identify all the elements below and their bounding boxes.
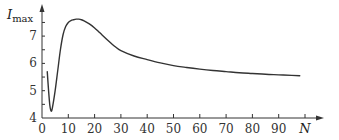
x-tick-label: 80: [245, 122, 260, 136]
x-tick-label: 10: [61, 122, 76, 136]
axes: [40, 4, 325, 121]
y-tick-label: 5: [29, 84, 37, 98]
y-tick-label: 4: [29, 111, 37, 125]
y-axis-title: Imax: [6, 7, 34, 24]
y-tick-label: 7: [29, 29, 37, 43]
x-tick-label: 40: [140, 122, 155, 136]
x-axis-arrow-icon: [316, 116, 324, 121]
x-tick-label: 70: [218, 122, 233, 136]
y-ticks: 4567: [29, 22, 45, 125]
x-tick-label: 90: [271, 122, 286, 136]
x-tick-label: 60: [192, 122, 207, 136]
x-axis-title: N: [298, 121, 311, 136]
x-tick-label: 0: [38, 122, 46, 136]
data-line: [47, 19, 299, 111]
y-tick-label: 6: [29, 56, 37, 70]
line-chart: 0102030405060708090N 4567 Imax: [0, 0, 339, 140]
y-axis-arrow-icon: [40, 4, 45, 12]
x-tick-label: 20: [87, 122, 102, 136]
x-tick-label: 30: [113, 122, 128, 136]
y-axis-title-sub: max: [12, 13, 33, 24]
x-tick-label: 50: [166, 122, 181, 136]
x-ticks: 0102030405060708090N: [38, 114, 311, 136]
